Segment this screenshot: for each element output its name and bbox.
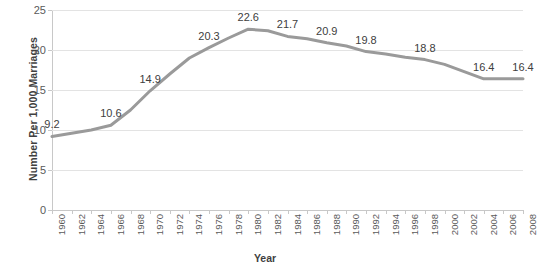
y-tick-label: 15: [2, 84, 46, 96]
x-tick-label: 1968: [135, 214, 146, 235]
x-tick-label: 2006: [507, 214, 518, 235]
y-tick-label: 10: [2, 124, 46, 136]
x-tick-label: 1988: [331, 214, 342, 235]
x-tick-label: 1974: [193, 214, 204, 235]
x-tick-mark: [523, 210, 524, 214]
data-point-label: 20.3: [198, 30, 219, 42]
data-point-label: 10.6: [100, 107, 121, 119]
x-tick-label: 1984: [292, 214, 303, 235]
x-tick-label: 1990: [350, 214, 361, 235]
x-axis-tick-labels: 1960196219641966196819701972197419761978…: [52, 214, 523, 248]
x-tick-label: 2004: [488, 214, 499, 235]
x-tick-label: 1970: [154, 214, 165, 235]
data-point-label: 16.4: [473, 61, 494, 73]
data-point-label: 9.2: [44, 118, 59, 130]
x-tick-label: 1982: [272, 214, 283, 235]
x-axis-title: Year: [0, 252, 530, 264]
data-point-label: 14.9: [139, 73, 160, 85]
x-tick-label: 1980: [252, 214, 263, 235]
x-tick-label: 1994: [390, 214, 401, 235]
data-point-label: 16.4: [512, 61, 533, 73]
data-point-label: 19.8: [355, 34, 376, 46]
data-point-label: 21.7: [277, 18, 298, 30]
data-point-label: 22.6: [238, 11, 259, 23]
x-tick-label: 1986: [311, 214, 322, 235]
y-tick-label: 20: [2, 44, 46, 56]
x-tick-label: 1976: [213, 214, 224, 235]
x-tick-label: 1972: [174, 214, 185, 235]
plot-area: 9.210.614.920.322.621.720.919.818.816.41…: [52, 10, 523, 210]
x-tick-label: 1992: [370, 214, 381, 235]
series-line: [52, 10, 523, 210]
x-tick-label: 1996: [409, 214, 420, 235]
x-tick-label: 1978: [233, 214, 244, 235]
y-tick-label: 0: [2, 204, 46, 216]
x-tick-label: 1964: [95, 214, 106, 235]
y-tick-label: 5: [2, 164, 46, 176]
y-tick-label: 25: [2, 4, 46, 16]
x-tick-label: 1962: [76, 214, 87, 235]
x-tick-label: 1966: [115, 214, 126, 235]
x-tick-label: 1960: [56, 214, 67, 235]
x-tick-label: 2002: [468, 214, 479, 235]
x-tick-label: 2000: [449, 214, 460, 235]
y-axis-tick-labels: 0510152025: [0, 0, 46, 270]
x-tick-label: 1998: [429, 214, 440, 235]
x-tick-label: 2008: [527, 214, 538, 235]
data-point-label: 20.9: [316, 25, 337, 37]
data-point-label: 18.8: [414, 42, 435, 54]
